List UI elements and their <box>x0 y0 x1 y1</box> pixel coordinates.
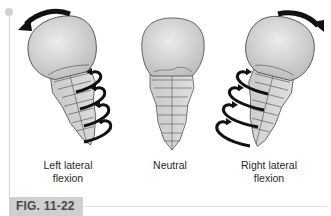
caption-neutral-line1: Neutral <box>130 159 210 172</box>
figure: Left lateral flexion Neutral Right later… <box>0 0 331 216</box>
caption-neutral: Neutral <box>130 159 210 172</box>
panel-right-lateral-flexion <box>222 10 320 155</box>
caption-left-line1: Left lateral <box>27 159 109 172</box>
caption-left-lateral-flexion: Left lateral flexion <box>27 159 109 185</box>
panel-neutral <box>142 18 204 150</box>
caption-right-line2: flexion <box>226 172 312 185</box>
caption-left-line2: flexion <box>27 172 109 185</box>
figure-number-label: FIG. 11-22 <box>9 197 83 216</box>
caption-right-line1: Right lateral <box>226 159 312 172</box>
caption-right-lateral-flexion: Right lateral flexion <box>226 159 312 185</box>
